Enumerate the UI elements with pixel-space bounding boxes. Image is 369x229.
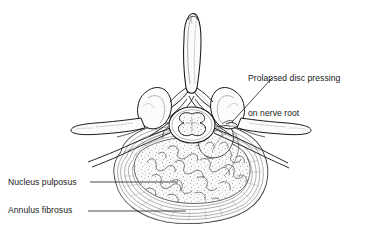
label-annulus-fibrosus: Annulus fibrosus: [8, 205, 72, 217]
label-prolapsed-line2: on nerve root: [248, 108, 340, 120]
label-prolapsed-disc: Prolapsed disc pressing on nerve root: [248, 50, 340, 142]
label-nucleus-pulposus: Nucleus pulposus: [8, 177, 77, 189]
label-prolapsed-line1: Prolapsed disc pressing: [248, 73, 340, 85]
spinal-cord: [169, 107, 215, 143]
nucleus-pulposus-core: [134, 137, 250, 204]
illustration-page: Prolapsed disc pressing on nerve root Nu…: [0, 0, 369, 229]
